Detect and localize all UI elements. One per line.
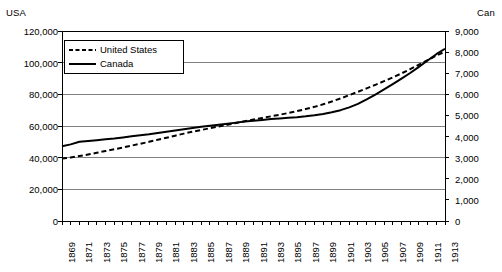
right-axis-tick-label: 0	[455, 216, 502, 227]
x-axis-tick-label: 1895	[292, 242, 303, 263]
x-axis-tick-label: 1887	[223, 242, 234, 263]
x-axis-tick-label: 1879	[153, 242, 164, 263]
right-axis-tick-label: 2,000	[455, 173, 502, 184]
right-axis-title: Can	[477, 7, 495, 18]
chart-legend: United States Canada	[64, 40, 184, 74]
x-axis-tick-label: 1889	[240, 242, 251, 263]
left-axis-tick-label: 40,000	[0, 152, 58, 163]
legend-label-canada: Canada	[100, 59, 133, 69]
x-axis-tick-label: 1869	[66, 242, 77, 263]
x-axis-tick-label: 1877	[136, 242, 147, 263]
right-axis-tick-label: 7,000	[455, 68, 502, 79]
legend-item-united-states: United States	[69, 43, 183, 57]
x-axis-tick-label: 1881	[170, 242, 181, 263]
legend-label-united-states: United States	[100, 45, 157, 55]
left-axis-tick-label: 120,000	[0, 26, 58, 37]
right-axis-tick-label: 4,000	[455, 131, 502, 142]
x-axis-tick-label: 1875	[118, 242, 129, 263]
right-axis-tick-label: 5,000	[455, 110, 502, 121]
x-axis-tick-label: 1911	[432, 243, 443, 263]
legend-item-canada: Canada	[69, 57, 183, 71]
x-axis-tick-label: 1885	[205, 242, 216, 263]
chart-container: USA Can 020,00040,00060,00080,000100,000…	[0, 0, 502, 272]
x-axis-tick-label: 1901	[345, 242, 356, 263]
x-axis-tick-label: 1909	[414, 242, 425, 263]
x-axis-tick-label: 1893	[275, 242, 286, 263]
x-axis-tick-label: 1883	[188, 242, 199, 263]
right-axis-tick-label: 9,000	[455, 26, 502, 37]
right-axis-tick-label: 1,000	[455, 194, 502, 205]
x-axis-tick-label: 1891	[258, 242, 269, 263]
right-axis-tick-label: 6,000	[455, 89, 502, 100]
x-axis-tick-label: 1905	[379, 242, 390, 263]
left-axis-tick-label: 100,000	[0, 57, 58, 68]
left-axis-title: USA	[6, 7, 26, 18]
x-axis-tick-label: 1873	[101, 242, 112, 263]
x-axis-tick-label: 1897	[310, 242, 321, 263]
right-axis-tick-label: 8,000	[455, 47, 502, 58]
x-axis-tick-label: 1913	[449, 242, 460, 263]
right-axis-tick-label: 3,000	[455, 152, 502, 163]
x-axis-tick-label: 1907	[397, 242, 408, 263]
x-axis-tick-label: 1871	[83, 242, 94, 263]
dashed-line-icon	[69, 45, 96, 55]
left-axis-tick-label: 80,000	[0, 89, 58, 100]
left-axis-tick-label: 20,000	[0, 184, 58, 195]
x-axis-tick-label: 1903	[362, 242, 373, 263]
solid-line-icon	[69, 59, 96, 69]
x-axis-tick-label: 1899	[327, 242, 338, 263]
left-axis-tick-label: 0	[0, 216, 58, 227]
left-axis-tick-label: 60,000	[0, 121, 58, 132]
